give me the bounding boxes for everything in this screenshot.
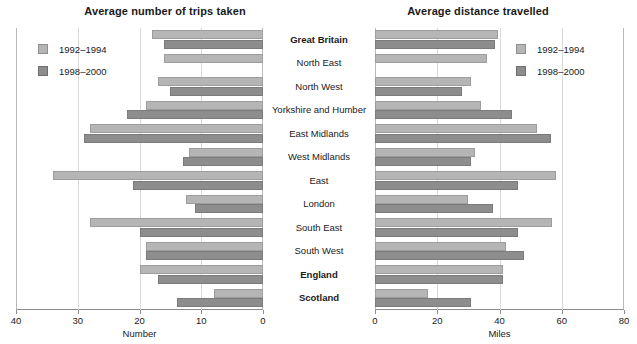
- legend-label: 1998–2000: [59, 66, 107, 77]
- x-axis-label-trips: Number: [16, 328, 263, 339]
- axis-tick: [375, 310, 376, 314]
- legend-item[interactable]: 1998–2000: [38, 60, 107, 82]
- bar-row: [375, 28, 624, 52]
- axis-tick-label: 0: [260, 315, 265, 326]
- bar-1992-1994: [375, 30, 498, 39]
- bar-1992-1994: [375, 77, 471, 86]
- chart-title-trips: Average number of trips taken: [0, 5, 324, 17]
- bar-row: [375, 216, 624, 240]
- axis-tick-label: 30: [72, 315, 83, 326]
- bar-1998-2000: [375, 275, 503, 284]
- bar-row: [375, 52, 624, 76]
- bar-1992-1994: [53, 171, 263, 180]
- bar-1998-2000: [375, 181, 518, 190]
- bar-row: [16, 122, 263, 146]
- axis-tick: [263, 310, 264, 314]
- bar-1992-1994: [375, 289, 428, 298]
- axis-tick-label: 80: [619, 315, 630, 326]
- bar-1998-2000: [375, 204, 493, 213]
- bar-row: [375, 169, 624, 193]
- bar-1998-2000: [375, 134, 551, 143]
- bar-1992-1994: [214, 289, 263, 298]
- bar-1992-1994: [146, 242, 263, 251]
- bar-1992-1994: [152, 30, 263, 39]
- plot-area-distance: [375, 28, 624, 310]
- bar-row: [16, 99, 263, 123]
- bar-1998-2000: [177, 298, 263, 307]
- bar-1998-2000: [375, 157, 471, 166]
- x-axis-distance: Miles 020406080: [375, 310, 624, 332]
- legend-label: 1992–1994: [537, 44, 585, 55]
- bar-1992-1994: [375, 195, 468, 204]
- chart-page: Average number of trips taken Number 403…: [0, 0, 637, 344]
- bar-row: [375, 75, 624, 99]
- bar-1992-1994: [158, 77, 263, 86]
- axis-tick: [437, 310, 438, 314]
- bar-1992-1994: [375, 265, 503, 274]
- legend-swatch-icon: [38, 66, 48, 76]
- legend-swatch-icon: [516, 44, 526, 54]
- axis-tick: [500, 310, 501, 314]
- chart-title-distance: Average distance travelled: [319, 5, 637, 17]
- bar-1998-2000: [195, 204, 263, 213]
- bar-row: [16, 193, 263, 217]
- bar-1998-2000: [140, 228, 264, 237]
- legend-swatch-icon: [516, 66, 526, 76]
- bar-rows-distance: [375, 28, 624, 310]
- bar-1998-2000: [375, 251, 524, 260]
- bar-1998-2000: [375, 110, 512, 119]
- axis-tick-label: 40: [11, 315, 22, 326]
- bar-1992-1994: [375, 101, 481, 110]
- bar-row: [375, 240, 624, 264]
- legend-item[interactable]: 1992–1994: [38, 38, 107, 60]
- legend-trips: 1992–19941998–2000: [38, 38, 107, 82]
- x-axis-trips: Number 403020100: [16, 310, 263, 332]
- axis-tick-label: 10: [196, 315, 207, 326]
- axis-tick-label: 20: [432, 315, 443, 326]
- bar-row: [16, 240, 263, 264]
- bar-1992-1994: [375, 218, 552, 227]
- bar-1992-1994: [164, 54, 263, 63]
- bar-row: [375, 193, 624, 217]
- bar-1992-1994: [375, 242, 506, 251]
- legend-label: 1998–2000: [537, 66, 585, 77]
- axis-tick: [140, 310, 141, 314]
- axis-tick: [562, 310, 563, 314]
- bar-row: [16, 216, 263, 240]
- bar-1992-1994: [90, 124, 263, 133]
- axis-tick-label: 60: [556, 315, 567, 326]
- bar-1998-2000: [183, 157, 263, 166]
- bar-1998-2000: [158, 275, 263, 284]
- legend-item[interactable]: 1998–2000: [516, 60, 585, 82]
- axis-tick: [201, 310, 202, 314]
- bar-1998-2000: [375, 40, 495, 49]
- bar-1992-1994: [375, 171, 556, 180]
- bar-row: [375, 146, 624, 170]
- bar-row: [16, 169, 263, 193]
- axis-tick: [78, 310, 79, 314]
- axis-tick-label: 20: [134, 315, 145, 326]
- bar-row: [375, 99, 624, 123]
- bar-1992-1994: [375, 148, 475, 157]
- bar-1998-2000: [170, 87, 263, 96]
- bar-1992-1994: [375, 124, 537, 133]
- bar-1992-1994: [90, 218, 263, 227]
- bar-row: [16, 263, 263, 287]
- bar-row: [375, 263, 624, 287]
- bar-1992-1994: [186, 195, 263, 204]
- axis-tick: [624, 310, 625, 314]
- bar-row: [375, 122, 624, 146]
- bar-1992-1994: [146, 101, 263, 110]
- x-axis-label-distance: Miles: [375, 328, 624, 339]
- bar-1992-1994: [189, 148, 263, 157]
- bar-1998-2000: [375, 228, 518, 237]
- bar-1998-2000: [133, 181, 263, 190]
- bar-1998-2000: [164, 40, 263, 49]
- bar-1998-2000: [84, 134, 263, 143]
- axis-tick-label: 0: [372, 315, 377, 326]
- bar-row: [16, 287, 263, 311]
- legend-item[interactable]: 1992–1994: [516, 38, 585, 60]
- bar-row: [16, 146, 263, 170]
- bar-row: [375, 287, 624, 311]
- bar-1998-2000: [375, 298, 471, 307]
